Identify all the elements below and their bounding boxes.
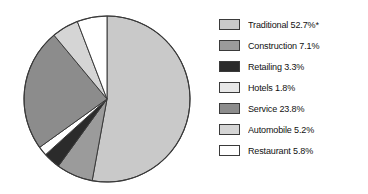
- legend-label-automobile: Automobile 5.2%: [248, 124, 314, 135]
- legend-swatch-automobile: [219, 124, 240, 135]
- legend-swatch-hotels: [219, 82, 240, 93]
- pie-slice-group: [24, 16, 190, 182]
- legend-swatch-retailing: [219, 61, 240, 72]
- pie-svg: [0, 0, 200, 194]
- legend-swatch-construction: [219, 40, 240, 51]
- legend-swatch-restaurant: [219, 145, 240, 156]
- legend-label-hotels: Hotels 1.8%: [248, 82, 295, 93]
- legend-label-restaurant: Restaurant 5.8%: [248, 145, 313, 156]
- legend-item-retailing[interactable]: Retailing 3.3%: [219, 56, 367, 77]
- pie-chart-figure: Traditional 52.7%* Construction 7.1% Ret…: [0, 0, 368, 194]
- chart-legend: Traditional 52.7%* Construction 7.1% Ret…: [219, 14, 367, 161]
- legend-swatch-service: [219, 103, 240, 114]
- legend-swatch-traditional: [219, 19, 240, 30]
- legend-label-traditional: Traditional 52.7%*: [248, 19, 319, 30]
- legend-label-construction: Construction 7.1%: [248, 40, 319, 51]
- legend-item-construction[interactable]: Construction 7.1%: [219, 35, 367, 56]
- legend-label-retailing: Retailing 3.3%: [248, 61, 304, 72]
- legend-item-restaurant[interactable]: Restaurant 5.8%: [219, 140, 367, 161]
- legend-label-service: Service 23.8%: [248, 103, 304, 114]
- pie-chart-graphic: [0, 0, 200, 194]
- legend-item-automobile[interactable]: Automobile 5.2%: [219, 119, 367, 140]
- legend-item-traditional[interactable]: Traditional 52.7%*: [219, 14, 367, 35]
- legend-item-service[interactable]: Service 23.8%: [219, 98, 367, 119]
- legend-item-hotels[interactable]: Hotels 1.8%: [219, 77, 367, 98]
